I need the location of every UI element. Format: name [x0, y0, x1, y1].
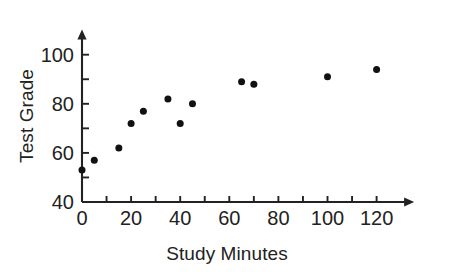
- data-point: [177, 120, 184, 127]
- axes: [77, 29, 414, 206]
- data-point: [115, 144, 122, 151]
- data-point: [128, 120, 135, 127]
- data-points: [79, 66, 381, 174]
- data-point: [238, 78, 245, 85]
- data-point: [164, 95, 171, 102]
- data-point: [250, 81, 257, 88]
- data-point: [140, 108, 147, 115]
- data-point: [79, 167, 86, 174]
- y-axis-arrow-icon: [77, 29, 86, 39]
- data-point: [373, 66, 380, 73]
- data-point: [324, 73, 331, 80]
- x-axis-arrow-icon: [404, 197, 414, 206]
- scatter-chart: Test Grade Study Minutes 406080100 02040…: [0, 0, 451, 272]
- plot-area: [0, 0, 451, 272]
- axis-ticks: [82, 55, 377, 202]
- data-point: [189, 100, 196, 107]
- data-point: [91, 157, 98, 164]
